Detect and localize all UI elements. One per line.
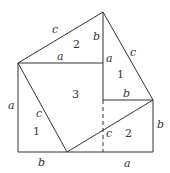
label-3-center: 3 xyxy=(72,88,79,101)
label-c-bottom: c xyxy=(106,127,112,140)
label-c-left: c xyxy=(36,107,42,120)
label-a-bottom: a xyxy=(124,157,131,170)
label-a-top: a xyxy=(57,50,64,63)
label-2-bottom: 2 xyxy=(125,127,132,140)
label-b-bottom: b xyxy=(38,156,45,169)
pythagorean-diagram: c 2 b a a c 1 3 b a c 1 b c 2 b a xyxy=(0,0,170,173)
label-1-left: 1 xyxy=(33,125,40,138)
label-b-vertical: b xyxy=(93,30,100,43)
label-b-right: b xyxy=(157,118,164,131)
hyp-bottom-right xyxy=(67,100,153,152)
label-1-right: 1 xyxy=(117,68,124,81)
label-b-inner: b xyxy=(123,87,130,100)
label-c-right: c xyxy=(130,46,136,59)
label-2-top: 2 xyxy=(73,38,80,51)
label-a-left: a xyxy=(8,99,15,112)
hyp-bottom-left xyxy=(18,63,67,152)
label-a-right: a xyxy=(106,52,113,65)
label-c-top: c xyxy=(52,23,58,36)
